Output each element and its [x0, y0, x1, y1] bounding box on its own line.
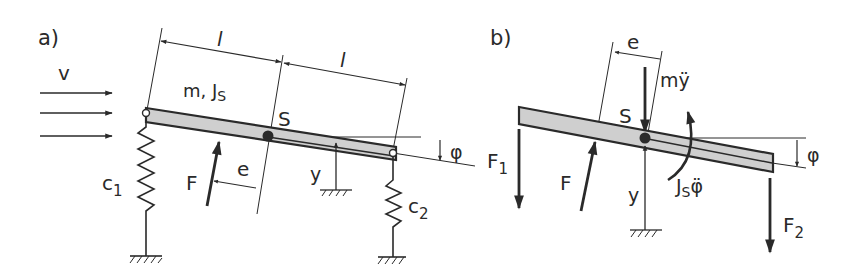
beam-dynamics-diagram: a) v l l m, JS S	[0, 0, 859, 273]
force-right-label: F2	[783, 213, 804, 242]
angle-label-b: φ	[807, 144, 820, 166]
centroid-point-b	[640, 133, 651, 144]
displacement-label-b: y	[628, 184, 639, 206]
inclined-reference-line-b	[772, 163, 806, 168]
force-label: F	[186, 171, 198, 195]
extension-line-left	[147, 28, 162, 110]
length-label-left: l	[217, 27, 223, 51]
inertia-moment-label: JSφ̈	[675, 175, 703, 200]
spring-right-label: c2	[408, 194, 429, 223]
force-arrow-b	[581, 142, 595, 211]
ground-y	[320, 190, 352, 196]
pin-right	[390, 150, 397, 157]
inertia-force-label: mÿ	[660, 69, 690, 91]
spring-left	[130, 117, 162, 263]
eccentricity-dimension	[214, 181, 256, 188]
force-left-label: F1	[487, 149, 508, 178]
centroid-point	[263, 131, 274, 142]
panel-b: b) e mÿ S φ JSφ̈ F1 F	[487, 26, 820, 252]
eccentricity-label: e	[237, 157, 249, 181]
length-label-right: l	[340, 48, 346, 72]
force-arrow	[207, 142, 219, 206]
panel-a: a) v l l m, JS S	[38, 26, 475, 264]
force-label-b: F	[560, 171, 572, 195]
ground-y-b	[630, 230, 662, 237]
extension-line-e-left	[597, 42, 613, 132]
panel-a-label: a)	[38, 26, 59, 50]
pin-left	[143, 110, 150, 117]
velocity-arrows: v	[40, 61, 112, 136]
spring-left-label: c1	[102, 171, 123, 200]
centroid-label: S	[278, 107, 291, 131]
eccentricity-label-b: e	[627, 30, 639, 54]
mass-inertia-label: m, JS	[183, 80, 226, 104]
extension-line-e-right	[648, 51, 662, 133]
angle-label: φ	[450, 141, 463, 163]
centroid-label-b: S	[619, 104, 632, 128]
panel-b-label: b)	[490, 26, 512, 50]
velocity-label: v	[58, 61, 70, 85]
displacement-label: y	[310, 163, 321, 185]
extension-line-right	[393, 78, 407, 150]
spring-right	[378, 157, 406, 264]
inclined-reference-line	[393, 153, 475, 166]
